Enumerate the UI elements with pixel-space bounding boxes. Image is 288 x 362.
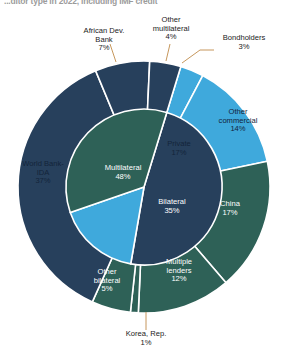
slice-label-korea-rep: Korea, Rep. 1% (102, 330, 190, 347)
slice-label-bilateral: Bilateral 35% (143, 198, 201, 215)
slice-label-private: Private 17% (152, 140, 206, 157)
slice-label-china: China 17% (202, 200, 258, 217)
slice-label-african-dev-bank: African Dev. Bank 7% (68, 27, 140, 53)
slice-label-other-multilateral: Other multilateral 4% (138, 16, 204, 42)
slice-label-bondholders: Bondholders 3% (205, 34, 283, 51)
leader-line-other-multilateral (166, 44, 170, 61)
slice-label-other-bilateral: Other bilateral 5% (83, 268, 131, 294)
slice-label-world-bank-ida: World Bank- IDA 37% (4, 160, 82, 186)
slice-label-other-commercial: Other commercial 14% (202, 108, 274, 134)
leader-line-bondholders (182, 50, 214, 63)
inner-ring (66, 109, 222, 265)
slice-label-multilateral: Multilateral 48% (88, 164, 158, 181)
slice-label-multiple-lenders: Multiple lenders 12% (150, 258, 208, 284)
pie-chart: World Bank- IDA 37% African Dev. Bank 7%… (0, 0, 288, 362)
